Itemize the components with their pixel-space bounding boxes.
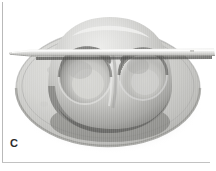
- panel-border-bottom: [2, 162, 210, 163]
- figure-panel: C: [0, 0, 216, 171]
- specimen-photograph: [0, 0, 216, 171]
- panel-border-left: [2, 2, 3, 162]
- scanline-texture: [0, 0, 216, 171]
- panel-label: C: [10, 138, 18, 149]
